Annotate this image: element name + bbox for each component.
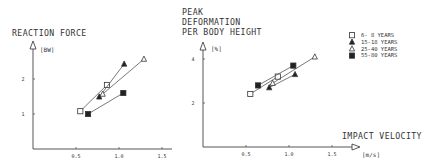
square-open-legend-icon	[349, 33, 354, 38]
triangle-open-marker-icon	[100, 91, 105, 96]
triangle-filled-marker-icon	[292, 71, 297, 76]
x-tick-label: 1.0	[284, 151, 293, 157]
right-series	[248, 54, 318, 97]
x-tick-label: 1.5	[327, 151, 336, 157]
y-tick-label: 1	[21, 111, 24, 117]
triangle-filled-marker-icon	[122, 61, 127, 66]
right-y-axis-arrow-icon	[200, 42, 206, 50]
legend: 6- 8 YEARS15-18 YEARS25-40 YEARS55-80 YE…	[349, 32, 397, 58]
y-tick-label: 2	[191, 100, 194, 106]
right-axes	[200, 42, 360, 150]
legend-label: 55-80 YEARS	[361, 52, 397, 58]
x-tick-label: 1.0	[114, 153, 123, 159]
legend-item: 6- 8 YEARS	[349, 32, 394, 38]
reaction-force-chart: REACTION FORCE [BW] 0.51.01.512	[12, 28, 172, 159]
square-filled-marker-icon	[121, 90, 126, 95]
triangle-open-marker-icon	[312, 54, 317, 59]
x-axis-title: IMPACT VELOCITY	[342, 131, 422, 141]
figure: REACTION FORCE [BW] 0.51.01.512 PEAK DEF…	[0, 0, 430, 167]
right-chart-title-line1: PEAK	[182, 7, 203, 17]
x-tick-label: 0.5	[241, 151, 250, 157]
legend-item: 25-40 YEARS	[349, 46, 397, 52]
right-y-unit: [%]	[211, 45, 222, 52]
triangle-filled-legend-icon	[349, 39, 354, 44]
left-ticks: 0.51.01.512	[21, 76, 166, 159]
x-axis-unit: [m/s]	[362, 151, 380, 158]
y-tick-label: 2	[21, 76, 24, 82]
x-tick-label: 0.5	[71, 153, 80, 159]
legend-item: 15-18 YEARS	[349, 39, 397, 45]
square-filled-legend-icon	[349, 53, 354, 58]
legend-label: 25-40 YEARS	[361, 46, 397, 52]
x-tick-label: 1.5	[157, 153, 166, 159]
series-line	[80, 85, 107, 111]
square-filled-marker-icon	[291, 63, 296, 68]
deformation-chart: PEAK DEFORMATION PER BODY HEIGHT [%] IMP…	[182, 7, 422, 158]
left-y-axis-arrow-icon	[30, 41, 36, 49]
y-tick-label: 4	[191, 56, 194, 62]
square-open-marker-icon	[248, 91, 253, 96]
series-line	[258, 66, 293, 86]
triangle-open-marker-icon	[141, 56, 146, 61]
left-series	[78, 56, 147, 117]
series-line	[88, 93, 123, 114]
left-chart-title: REACTION FORCE	[12, 28, 87, 38]
legend-item: 55-80 YEARS	[349, 52, 397, 58]
right-chart-title-line2: DEFORMATION	[182, 17, 241, 27]
legend-label: 6- 8 YEARS	[361, 32, 394, 38]
square-open-marker-icon	[78, 109, 83, 114]
right-x-axis-arrow-icon	[352, 144, 360, 150]
right-chart-title-line3: PER BODY HEIGHT	[182, 27, 262, 37]
series-line	[273, 57, 315, 83]
square-filled-marker-icon	[255, 83, 260, 88]
right-ticks: 0.51.01.524	[191, 56, 336, 157]
left-y-unit: [BW]	[40, 46, 54, 53]
legend-label: 15-18 YEARS	[361, 39, 397, 45]
square-filled-marker-icon	[85, 111, 90, 116]
triangle-open-legend-icon	[349, 46, 354, 51]
